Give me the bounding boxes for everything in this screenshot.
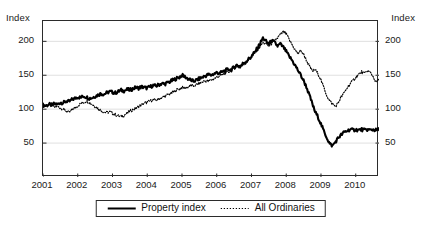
right-axis-unit-label: Index — [391, 12, 415, 23]
right-axis-tick-label: 100 — [385, 103, 419, 113]
left-axis-tick-label: 150 — [0, 69, 34, 79]
legend-entry: All Ordinaries — [220, 203, 315, 213]
legend-entry: Property index — [106, 203, 205, 213]
bottom-axis-tick-marks — [43, 174, 356, 178]
legend-dotted-line-icon — [220, 204, 250, 212]
left-axis-tick-label: 50 — [0, 137, 34, 147]
right-axis-tick-label: 150 — [385, 69, 419, 79]
plot-area — [42, 20, 378, 176]
left-axis-tick-label: 100 — [0, 103, 34, 113]
right-axis-tick-label: 50 — [385, 137, 419, 147]
bottom-axis-tick-label: 2010 — [335, 180, 375, 190]
series-line-property-index — [43, 37, 379, 146]
legend-label: Property index — [141, 203, 205, 213]
left-axis-unit-label: Index — [6, 12, 30, 23]
left-axis-tick-label: 200 — [0, 35, 34, 45]
legend-solid-line-icon — [106, 204, 136, 212]
horizontal-gridlines — [43, 41, 379, 143]
chart-legend: Property indexAll Ordinaries — [95, 200, 326, 217]
left-axis-tick-marks — [43, 41, 47, 143]
series-canvas — [43, 21, 379, 177]
property-index-chart-figure: Index Index 20015010050 20015010050 2001… — [0, 0, 421, 232]
right-axis-tick-label: 200 — [385, 35, 419, 45]
legend-label: All Ordinaries — [255, 203, 315, 213]
